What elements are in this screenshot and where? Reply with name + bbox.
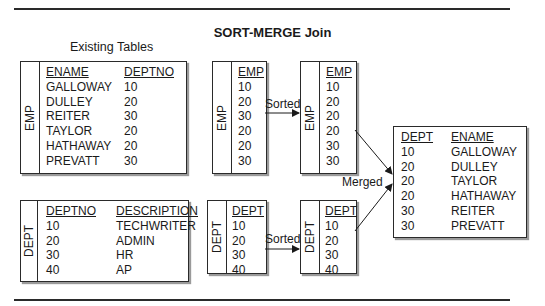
sorted-label-top: Sorted xyxy=(265,97,300,111)
merged-label: Merged xyxy=(342,175,383,189)
merged-arrow-bottom xyxy=(355,184,392,231)
merged-arrow-top xyxy=(355,130,392,174)
flow-arrows xyxy=(0,0,545,306)
sorted-label-bottom: Sorted xyxy=(265,232,300,246)
bottom-rule xyxy=(14,299,510,301)
